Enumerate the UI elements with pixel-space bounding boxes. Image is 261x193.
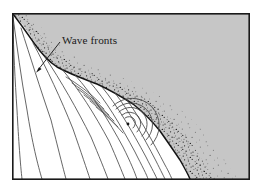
beach-stipple-band bbox=[0, 0, 261, 193]
wave-refraction-diagram: Wave fronts bbox=[0, 0, 261, 193]
figure-root: Wave fronts bbox=[0, 0, 261, 193]
headland-tip-point bbox=[127, 123, 130, 126]
wave-fronts-label: Wave fronts bbox=[62, 34, 117, 46]
